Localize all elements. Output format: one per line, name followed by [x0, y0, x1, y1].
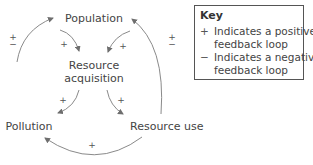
minus-symbol: −	[200, 51, 208, 63]
legend-text-positive-line1: Indicates a positive	[214, 25, 309, 37]
sign-acq-to-use: +	[117, 96, 125, 105]
legend-key: Key + Indicates a positive feedback loop…	[194, 5, 304, 80]
sign-use-to-poll: +	[88, 141, 96, 150]
sign-use-to-acq: +	[119, 42, 127, 51]
node-resource-acquisition-line2: acquisition	[64, 72, 124, 85]
sign-left-minus: −	[9, 41, 17, 48]
legend-title: Key	[200, 9, 223, 22]
node-pollution: Pollution	[4, 120, 54, 133]
arrow-resource-use-to-population	[132, 19, 162, 114]
node-resource-use: Resource use	[130, 120, 196, 133]
legend-text-negative-line2: feedback loop	[214, 64, 309, 76]
sign-acq-to-poll: +	[59, 96, 67, 105]
node-resource-acquisition-line1: Resource	[64, 59, 124, 72]
legend-text-positive-line2: feedback loop	[214, 38, 309, 50]
plus-symbol: +	[200, 25, 208, 37]
node-population: Population	[64, 12, 124, 25]
arrow-pollution-to-population	[17, 18, 53, 62]
legend-text-negative-line1: Indicates a negative	[214, 51, 309, 63]
sign-right-minus: −	[168, 41, 176, 48]
sign-pop-to-acq: +	[60, 40, 68, 49]
